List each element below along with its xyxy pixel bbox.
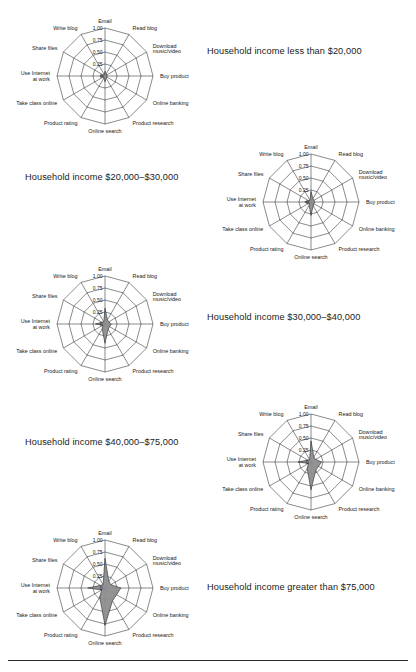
- radar-chart-svg: 1.000.750.500.250EmailRead blogDownloadm…: [216, 390, 406, 530]
- svg-text:Downloadmusic/video: Downloadmusic/video: [153, 291, 181, 303]
- svg-text:Product rating: Product rating: [44, 632, 78, 638]
- svg-text:Buy product: Buy product: [160, 73, 189, 79]
- svg-text:Write blog: Write blog: [53, 537, 77, 543]
- svg-text:Read blog: Read blog: [133, 25, 158, 31]
- svg-text:0: 0: [306, 199, 309, 205]
- svg-text:Share files: Share files: [32, 45, 58, 51]
- svg-text:Online banking: Online banking: [359, 486, 395, 492]
- svg-text:Product rating: Product rating: [250, 246, 284, 252]
- svg-text:Product research: Product research: [339, 506, 380, 512]
- svg-text:0.75: 0.75: [299, 423, 309, 429]
- svg-text:Take class online: Take class online: [16, 100, 57, 106]
- svg-text:Share files: Share files: [32, 293, 58, 299]
- radar-chart-svg: 1.000.750.500.250EmailRead blogDownloadm…: [10, 252, 200, 392]
- svg-text:0: 0: [306, 459, 309, 465]
- svg-text:Use Internetat work: Use Internetat work: [21, 318, 51, 330]
- svg-text:Online search: Online search: [88, 128, 121, 134]
- svg-text:0.25: 0.25: [93, 61, 103, 67]
- radar-panel: 1.000.750.500.250EmailRead blogDownloadm…: [10, 252, 200, 392]
- radar-panel: 1.000.750.500.250EmailRead blogDownloadm…: [216, 390, 406, 530]
- svg-text:Online search: Online search: [88, 376, 121, 382]
- radar-chart-svg: 1.000.750.500.250EmailRead blogDownloadm…: [10, 512, 200, 660]
- svg-text:1.00: 1.00: [299, 151, 309, 157]
- svg-text:Online search: Online search: [294, 514, 327, 520]
- svg-text:Write blog: Write blog: [53, 25, 77, 31]
- svg-text:Downloadmusic/video: Downloadmusic/video: [153, 43, 181, 55]
- radar-panel: 1.000.750.500.250EmailRead blogDownloadm…: [10, 4, 200, 144]
- svg-text:Take class online: Take class online: [16, 612, 57, 618]
- svg-text:0.75: 0.75: [93, 285, 103, 291]
- radar-panel: 1.000.750.500.250EmailRead blogDownloadm…: [216, 130, 406, 270]
- svg-text:Use Internetat work: Use Internetat work: [227, 196, 257, 208]
- svg-text:Online banking: Online banking: [153, 100, 189, 106]
- svg-text:Downloadmusic/video: Downloadmusic/video: [359, 429, 387, 441]
- footer-divider-rule: [8, 660, 408, 661]
- svg-text:0: 0: [100, 585, 103, 591]
- svg-text:Read blog: Read blog: [133, 273, 158, 279]
- svg-text:0: 0: [100, 321, 103, 327]
- svg-text:Write blog: Write blog: [259, 411, 283, 417]
- svg-text:Product rating: Product rating: [44, 120, 78, 126]
- svg-text:Product rating: Product rating: [250, 506, 284, 512]
- svg-text:Product research: Product research: [133, 368, 174, 374]
- svg-text:1.00: 1.00: [93, 273, 103, 279]
- svg-text:Online search: Online search: [294, 254, 327, 260]
- svg-text:0.50: 0.50: [93, 561, 103, 567]
- svg-text:0.75: 0.75: [299, 163, 309, 169]
- svg-text:Share files: Share files: [238, 431, 264, 437]
- radar-data-polygon: [88, 558, 121, 625]
- svg-text:Use Internetat work: Use Internetat work: [227, 456, 257, 468]
- svg-text:1.00: 1.00: [93, 25, 103, 31]
- svg-text:Online banking: Online banking: [153, 348, 189, 354]
- panel-caption: Household income $40,000–$75,000: [25, 437, 178, 447]
- panel-caption: Household income greater than $75,000: [207, 582, 375, 592]
- svg-text:0.25: 0.25: [299, 187, 309, 193]
- panel-caption: Household income $20,000–$30,000: [25, 172, 178, 182]
- svg-text:Share files: Share files: [32, 557, 58, 563]
- svg-text:Online search: Online search: [88, 640, 121, 646]
- svg-text:Read blog: Read blog: [339, 411, 364, 417]
- radar-chart-svg: 1.000.750.500.250EmailRead blogDownloadm…: [216, 130, 406, 270]
- svg-text:0.50: 0.50: [299, 175, 309, 181]
- svg-text:Online banking: Online banking: [153, 612, 189, 618]
- svg-text:Email: Email: [304, 404, 317, 410]
- svg-text:1.00: 1.00: [299, 411, 309, 417]
- panel-caption: Household income $30,000–$40,000: [207, 312, 360, 322]
- svg-text:Use Internetat work: Use Internetat work: [21, 582, 51, 594]
- svg-text:Write blog: Write blog: [259, 151, 283, 157]
- svg-text:0.25: 0.25: [299, 447, 309, 453]
- svg-text:Read blog: Read blog: [339, 151, 364, 157]
- svg-text:0.50: 0.50: [93, 49, 103, 55]
- svg-text:0: 0: [100, 73, 103, 79]
- svg-text:Product research: Product research: [133, 120, 174, 126]
- radar-chart-figure: 1.000.750.500.250EmailRead blogDownloadm…: [0, 0, 416, 672]
- radar-chart-svg: 1.000.750.500.250EmailRead blogDownloadm…: [10, 4, 200, 144]
- svg-text:Take class online: Take class online: [16, 348, 57, 354]
- svg-text:Email: Email: [304, 144, 317, 150]
- svg-text:Take class online: Take class online: [222, 226, 263, 232]
- svg-text:Write blog: Write blog: [53, 273, 77, 279]
- panel-caption: Household income less than $20,000: [207, 46, 362, 56]
- svg-text:Product rating: Product rating: [44, 368, 78, 374]
- svg-text:0.25: 0.25: [93, 309, 103, 315]
- svg-text:Buy product: Buy product: [160, 321, 189, 327]
- svg-text:Read blog: Read blog: [133, 537, 158, 543]
- svg-text:0.50: 0.50: [299, 435, 309, 441]
- svg-text:Online banking: Online banking: [359, 226, 395, 232]
- svg-text:Email: Email: [98, 530, 111, 536]
- svg-text:Downloadmusic/video: Downloadmusic/video: [153, 555, 181, 567]
- svg-text:Share files: Share files: [238, 171, 264, 177]
- svg-text:Email: Email: [98, 18, 111, 24]
- svg-text:Buy product: Buy product: [160, 585, 189, 591]
- svg-text:0.75: 0.75: [93, 37, 103, 43]
- radar-panel: 1.000.750.500.250EmailRead blogDownloadm…: [10, 512, 200, 660]
- svg-text:Use Internetat work: Use Internetat work: [21, 70, 51, 82]
- svg-text:Buy product: Buy product: [366, 199, 395, 205]
- svg-text:Buy product: Buy product: [366, 459, 395, 465]
- svg-text:0.50: 0.50: [93, 297, 103, 303]
- svg-text:Downloadmusic/video: Downloadmusic/video: [359, 169, 387, 181]
- svg-text:Email: Email: [98, 266, 111, 272]
- svg-text:Product research: Product research: [133, 632, 174, 638]
- svg-text:0.75: 0.75: [93, 549, 103, 555]
- svg-text:0.25: 0.25: [93, 573, 103, 579]
